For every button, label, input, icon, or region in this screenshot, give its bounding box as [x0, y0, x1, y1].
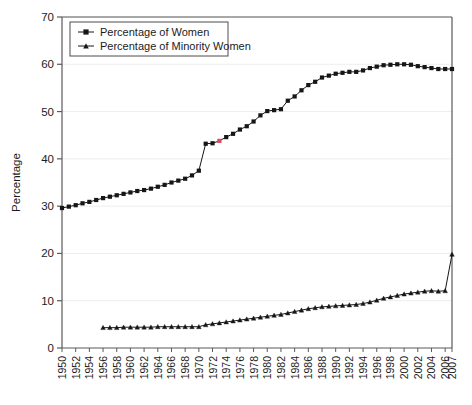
series-1	[60, 62, 454, 210]
x-tick-label: 1952	[70, 356, 82, 380]
data-point	[429, 66, 433, 70]
data-point	[436, 67, 440, 71]
series-2	[101, 252, 455, 330]
data-point	[402, 62, 406, 66]
legend-square-icon	[83, 29, 88, 34]
x-tick-label: 1980	[261, 356, 273, 380]
x-tick-label: 1956	[97, 356, 109, 380]
data-point	[176, 179, 180, 183]
data-point	[74, 203, 78, 207]
x-tick-label: 1994	[357, 356, 369, 380]
x-tick-label: 1986	[302, 356, 314, 380]
y-axis: 010203040506070	[41, 11, 62, 354]
data-point	[108, 195, 112, 199]
data-point	[354, 70, 358, 74]
x-tick-label: 1962	[138, 356, 150, 380]
data-point	[87, 200, 91, 204]
data-point	[381, 63, 385, 67]
data-point	[347, 70, 351, 74]
x-tick-label: 1978	[248, 356, 260, 380]
y-tick-label: 30	[41, 200, 54, 212]
data-point	[183, 177, 187, 181]
grid-lines	[62, 17, 452, 301]
data-point	[238, 127, 242, 131]
data-point	[224, 135, 228, 139]
data-point	[293, 94, 297, 98]
legend-label: Percentage of Women	[100, 26, 209, 38]
data-point	[272, 108, 276, 112]
data-point	[258, 113, 262, 117]
data-point	[368, 66, 372, 70]
y-tick-label: 10	[41, 295, 54, 307]
chart-container: 010203040506070Percentage195019521954195…	[0, 0, 472, 405]
y-axis-title: Percentage	[10, 153, 22, 212]
data-point	[265, 109, 269, 113]
x-tick-label: 1954	[83, 356, 95, 380]
x-tick-label: 1996	[371, 356, 383, 380]
x-tick-label: 1974	[220, 356, 232, 380]
x-tick-label: 2007	[446, 356, 458, 380]
data-point	[450, 67, 454, 71]
x-tick-label: 1970	[193, 356, 205, 380]
data-point	[204, 142, 208, 146]
x-tick-label: 2000	[398, 356, 410, 380]
x-tick-label: 1988	[316, 356, 328, 380]
data-point	[135, 189, 139, 193]
data-point	[115, 193, 119, 197]
y-axis-title-text: Percentage	[10, 153, 22, 212]
data-point	[409, 63, 413, 67]
data-point	[450, 252, 455, 256]
data-point	[60, 206, 64, 210]
data-point	[190, 173, 194, 177]
data-point	[94, 198, 98, 202]
data-point	[327, 74, 331, 78]
data-point	[169, 180, 173, 184]
data-point	[163, 183, 167, 187]
data-point	[121, 192, 125, 196]
x-tick-label: 1972	[207, 356, 219, 380]
x-tick-label: 1964	[152, 356, 164, 380]
x-axis: 1950195219541956195819601962196419661968…	[56, 348, 458, 379]
y-tick-label: 70	[41, 11, 54, 23]
line-chart: 010203040506070Percentage195019521954195…	[0, 0, 472, 405]
data-point	[416, 64, 420, 68]
x-tick-label: 1992	[343, 356, 355, 380]
data-point	[443, 67, 447, 71]
x-tick-label: 2002	[412, 356, 424, 380]
data-point	[210, 141, 214, 145]
x-tick-label: 1960	[124, 356, 136, 380]
series-line	[103, 254, 452, 327]
data-point	[279, 107, 283, 111]
x-tick-label: 1990	[330, 356, 342, 380]
data-point	[101, 196, 105, 200]
x-tick-label: 1958	[111, 356, 123, 380]
data-point	[197, 169, 201, 173]
data-point	[217, 139, 221, 143]
data-point	[142, 188, 146, 192]
y-tick-label: 40	[41, 153, 54, 165]
data-point	[313, 80, 317, 84]
data-point	[320, 75, 324, 79]
data-point	[340, 71, 344, 75]
data-point	[299, 88, 303, 92]
data-point	[156, 185, 160, 189]
data-point	[395, 62, 399, 66]
data-point	[231, 132, 235, 136]
plot-frame	[62, 17, 452, 348]
data-point	[67, 205, 71, 209]
y-tick-label: 20	[41, 247, 54, 259]
data-point	[128, 190, 132, 194]
x-tick-label: 1976	[234, 356, 246, 380]
data-point	[149, 187, 153, 191]
data-point	[334, 72, 338, 76]
y-tick-label: 50	[41, 106, 54, 118]
y-tick-label: 60	[41, 58, 54, 70]
legend: Percentage of WomenPercentage of Minorit…	[70, 22, 251, 56]
data-point	[251, 119, 255, 123]
data-point	[423, 65, 427, 69]
x-tick-label: 1984	[289, 356, 301, 380]
data-point	[361, 68, 365, 72]
x-tick-label: 1982	[275, 356, 287, 380]
x-tick-label: 1950	[56, 356, 68, 380]
y-tick-label: 0	[48, 342, 54, 354]
